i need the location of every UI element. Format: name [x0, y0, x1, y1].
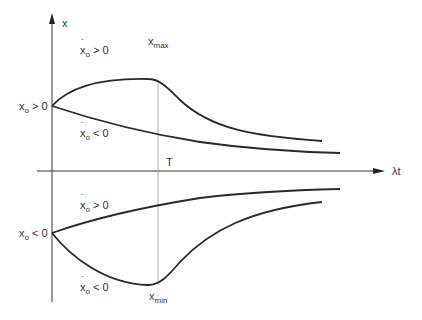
y-axis-arrow-icon: [49, 13, 55, 24]
curve-label-pos-pos: xo > 0: [80, 45, 109, 56]
time-marker-label: T: [166, 157, 173, 168]
x-min-label: xmin: [149, 291, 167, 302]
x-max-label: xmax: [148, 36, 169, 47]
curve-neg-neg: [52, 202, 322, 285]
x-axis-arrow-icon: [373, 168, 385, 174]
initial-condition-positive: xo > 0: [19, 101, 48, 112]
phase-diagram: [0, 0, 422, 320]
curve-neg-pos: [52, 189, 340, 233]
y-axis-label: x: [62, 18, 68, 29]
curve-label-pos-neg: xo < 0: [80, 128, 109, 139]
curve-label-neg-pos: xo > 0: [80, 200, 109, 211]
x-axis-label: λt: [392, 166, 401, 177]
initial-condition-negative: xo < 0: [19, 228, 48, 239]
curve-label-neg-neg: xo < 0: [80, 282, 109, 293]
